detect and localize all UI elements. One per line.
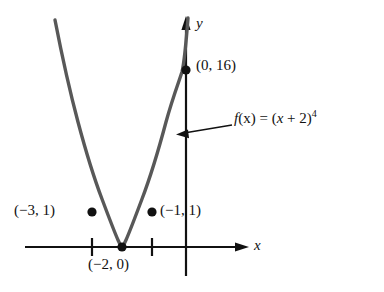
point-0-16: [181, 65, 190, 74]
point-minus3-1: [87, 207, 96, 216]
point-minus2-0: [117, 242, 126, 251]
function-equals: = (: [256, 110, 277, 126]
x-axis-arrowhead: [235, 242, 249, 251]
y-axis-label: y: [196, 16, 203, 31]
function-leader-arrowhead: [176, 130, 189, 139]
point-minus1-1: [147, 207, 156, 216]
function-remainder: + 2): [283, 110, 311, 126]
point-label-0-16: (0, 16): [196, 58, 236, 73]
function-argument: (x): [238, 110, 256, 126]
graph-canvas: [0, 0, 384, 292]
point-label-minus2-0: (−2, 0): [88, 257, 129, 272]
function-equation-label: f(x) = (x + 2)4: [234, 111, 317, 126]
point-label-minus3-1: (−3, 1): [14, 203, 55, 218]
x-axis-label: x: [254, 238, 261, 253]
function-leader-line: [184, 125, 232, 133]
point-label-minus1-1: (−1, 1): [160, 203, 201, 218]
math-figure: y x (0, 16) (−3, 1) (−1, 1) (−2, 0) f(x)…: [0, 0, 384, 292]
function-exponent: 4: [312, 108, 317, 119]
